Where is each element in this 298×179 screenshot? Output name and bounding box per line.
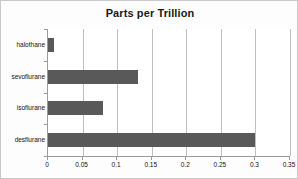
- y-axis-category-label: isoflurane: [1, 104, 45, 112]
- x-axis-tick-label: 0.25: [205, 161, 235, 168]
- x-axis-tick: [254, 156, 255, 160]
- plot-area: [47, 29, 290, 157]
- y-axis-tick: [44, 61, 47, 62]
- x-axis-tick-label: 0.2: [170, 161, 200, 168]
- y-axis-tick: [44, 156, 47, 157]
- y-axis-category-label: desflurane: [1, 136, 45, 144]
- x-axis-tick: [151, 156, 152, 160]
- x-axis-tick: [47, 156, 48, 160]
- x-axis-tick-label: 0: [32, 161, 62, 168]
- x-axis-tick: [185, 156, 186, 160]
- chart-title: Parts per Trillion: [1, 7, 298, 19]
- bar: [48, 101, 103, 115]
- x-axis-tick: [116, 156, 117, 160]
- x-axis-tick-label: 0.05: [67, 161, 97, 168]
- x-axis-tick: [289, 156, 290, 160]
- y-axis-category-label: sevoflurane: [1, 73, 45, 81]
- y-axis-category-label: halothane: [1, 41, 45, 49]
- bar: [48, 133, 255, 147]
- gridline: [255, 29, 256, 156]
- chart-frame: Parts per Trillion 00.050.10.150.20.250.…: [0, 0, 298, 179]
- y-axis-tick: [44, 29, 47, 30]
- x-axis-tick-label: 0.15: [136, 161, 166, 168]
- x-axis-tick: [82, 156, 83, 160]
- bar: [48, 70, 138, 84]
- x-axis-tick-label: 0.1: [101, 161, 131, 168]
- y-axis-tick: [44, 93, 47, 94]
- bar: [48, 38, 54, 52]
- x-axis-tick-label: 0.35: [274, 161, 298, 168]
- gridline: [290, 29, 291, 156]
- x-axis-tick: [220, 156, 221, 160]
- x-axis-tick-label: 0.3: [239, 161, 269, 168]
- y-axis-tick: [44, 124, 47, 125]
